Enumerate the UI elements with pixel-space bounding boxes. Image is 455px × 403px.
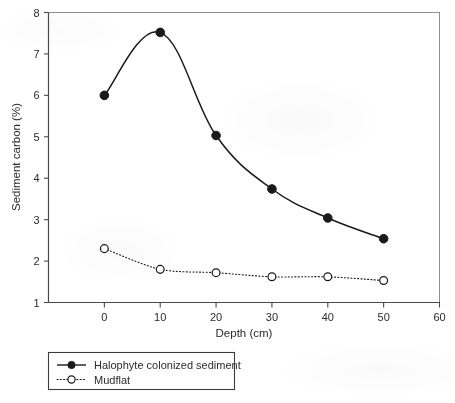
x-tick-label: 60	[433, 311, 445, 323]
y-axis-title: Sediment carbon (%)	[10, 103, 22, 211]
legend-entry-mudflat[interactable]: Mudflat	[57, 374, 130, 386]
y-tick-label: 7	[33, 48, 39, 60]
series-halophyte-colonized-sediment	[100, 28, 388, 243]
legend-label-1: Mudflat	[94, 374, 130, 386]
data-point-marker	[100, 245, 108, 253]
x-tick-label: 40	[322, 311, 334, 323]
series-line-halophyte-colonized-sediment	[104, 32, 383, 239]
filled-circle-icon	[68, 361, 75, 368]
y-tick-label: 4	[33, 172, 39, 184]
open-circle-icon	[68, 376, 75, 383]
data-point-marker	[380, 277, 388, 285]
data-series-layer	[100, 28, 388, 284]
y-tick-label: 3	[33, 214, 39, 226]
data-point-marker	[268, 185, 277, 194]
legend-entry-halophyte-colonized-sediment[interactable]: Halophyte colonized sediment	[57, 359, 241, 371]
data-point-marker	[156, 265, 164, 273]
data-point-marker	[379, 234, 388, 243]
x-axis-ticks: 0102030405060	[101, 303, 445, 323]
data-point-marker	[212, 131, 221, 140]
x-tick-label: 30	[266, 311, 278, 323]
y-tick-label: 5	[33, 131, 39, 143]
y-tick-label: 1	[33, 297, 39, 309]
chart-legend: Halophyte colonized sediment Mudflat	[49, 353, 241, 390]
x-tick-label: 50	[378, 311, 390, 323]
series-line-mudflat	[104, 249, 383, 281]
sediment-carbon-depth-line-chart: 12345678 0102030405060 Depth (cm) Sedime…	[0, 0, 455, 403]
series-mudflat	[100, 245, 387, 285]
data-point-marker	[156, 28, 165, 37]
plot-axes	[48, 12, 440, 303]
figure-container: 12345678 0102030405060 Depth (cm) Sedime…	[0, 0, 455, 403]
data-point-marker	[212, 269, 220, 277]
data-point-marker	[100, 91, 109, 100]
y-tick-label: 6	[33, 89, 39, 101]
y-axis-ticks: 12345678	[33, 7, 48, 309]
y-tick-label: 2	[33, 255, 39, 267]
data-point-marker	[324, 273, 332, 281]
x-axis-title: Depth (cm)	[216, 327, 273, 339]
y-tick-label: 8	[33, 7, 39, 19]
x-tick-label: 0	[101, 311, 107, 323]
x-tick-label: 10	[154, 311, 166, 323]
data-point-marker	[323, 214, 332, 223]
x-tick-label: 20	[210, 311, 222, 323]
data-point-marker	[268, 273, 276, 281]
legend-label-0: Halophyte colonized sediment	[94, 359, 241, 371]
